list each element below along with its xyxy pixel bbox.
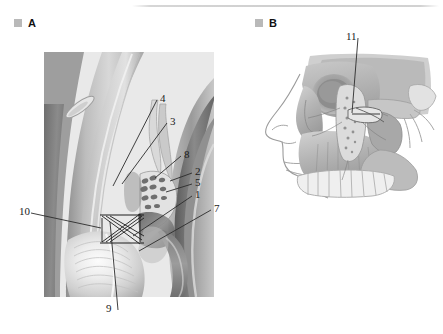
figure-root: A B — [0, 0, 443, 334]
leader-number-3: 3 — [170, 116, 176, 127]
panel-b-label: B — [255, 17, 277, 29]
leader-number-1: 1 — [195, 189, 201, 200]
square-bullet-icon — [255, 19, 263, 27]
leader-number-11: 11 — [346, 31, 357, 42]
leader-number-10: 10 — [19, 206, 30, 217]
panel-a-letter: A — [28, 17, 36, 29]
panel-b-illustration — [252, 52, 437, 200]
header-rule — [132, 5, 439, 7]
leader-number-4: 4 — [160, 93, 166, 104]
panel-a-illustration — [44, 52, 214, 297]
panel-b-letter: B — [269, 17, 277, 29]
panel-a-label: A — [14, 17, 36, 29]
leader-number-9: 9 — [106, 303, 112, 314]
leader-number-8: 8 — [184, 149, 190, 160]
leader-number-7: 7 — [214, 203, 220, 214]
leader-number-5: 5 — [195, 177, 201, 188]
square-bullet-icon — [14, 19, 22, 27]
